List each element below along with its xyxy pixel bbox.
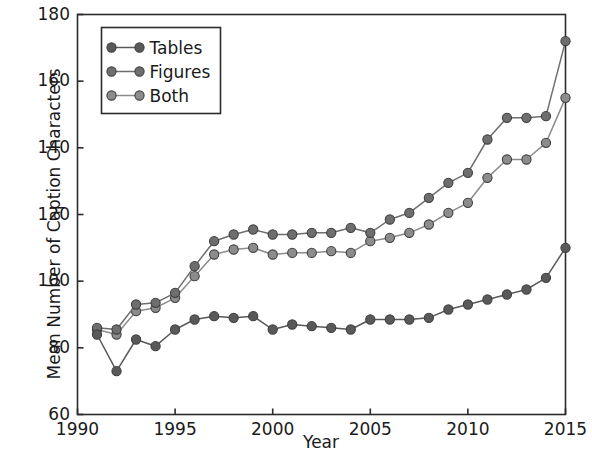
data-point — [249, 243, 258, 252]
line-chart-canvas: TablesFiguresBoth — [0, 0, 592, 458]
x-axis-tick-label: 2000 — [233, 419, 313, 439]
data-point — [190, 315, 199, 324]
legend-marker — [107, 67, 116, 76]
data-point — [268, 230, 277, 239]
data-point — [92, 330, 101, 339]
data-point — [249, 312, 258, 321]
data-point — [483, 295, 492, 304]
data-point — [249, 225, 258, 234]
data-point — [288, 248, 297, 257]
data-point — [210, 250, 219, 259]
data-point — [210, 237, 219, 246]
data-point — [229, 313, 238, 322]
data-point — [112, 367, 121, 376]
data-point — [502, 113, 511, 122]
chart-figure: TablesFiguresBoth Mean Number of Caption… — [0, 0, 592, 458]
data-point — [463, 198, 472, 207]
y-axis-tick-label: 180 — [8, 4, 70, 24]
legend-marker — [135, 43, 144, 52]
data-point — [483, 173, 492, 182]
data-point — [541, 138, 550, 147]
data-point — [424, 193, 433, 202]
data-point — [541, 112, 550, 121]
data-point — [307, 248, 316, 257]
data-point — [502, 155, 511, 164]
legend-marker — [135, 91, 144, 100]
data-point — [151, 342, 160, 351]
data-point — [190, 272, 199, 281]
data-point — [131, 300, 140, 309]
y-axis-tick-label: 160 — [8, 70, 70, 90]
data-point — [405, 208, 414, 217]
data-point — [561, 37, 570, 46]
data-point — [522, 113, 531, 122]
y-axis-tick-label: 100 — [8, 270, 70, 290]
legend-marker — [135, 67, 144, 76]
data-point — [327, 247, 336, 256]
data-point — [424, 220, 433, 229]
y-axis-tick-label: 80 — [8, 337, 70, 357]
x-axis-tick-label: 2005 — [330, 419, 410, 439]
legend-label-tables: Tables — [149, 38, 203, 58]
data-point — [346, 248, 355, 257]
data-point — [444, 178, 453, 187]
series-line-both — [97, 98, 565, 335]
x-axis-tick-label: 1995 — [135, 419, 215, 439]
data-point — [346, 325, 355, 334]
legend-marker — [107, 43, 116, 52]
legend-label-both: Both — [150, 86, 190, 106]
data-point — [327, 228, 336, 237]
data-point — [483, 135, 492, 144]
data-point — [405, 228, 414, 237]
series-line-tables — [97, 248, 565, 371]
x-axis-tick-label: 1990 — [38, 419, 118, 439]
data-point — [463, 300, 472, 309]
data-point — [307, 322, 316, 331]
data-point — [366, 315, 375, 324]
data-point — [210, 312, 219, 321]
data-point — [131, 335, 140, 344]
data-point — [171, 325, 180, 334]
data-point — [288, 230, 297, 239]
data-point — [288, 320, 297, 329]
data-point — [346, 223, 355, 232]
y-axis-tick-label: 140 — [8, 137, 70, 157]
data-point — [190, 262, 199, 271]
data-point — [268, 250, 277, 259]
data-point — [463, 168, 472, 177]
data-point — [112, 325, 121, 334]
data-point — [541, 273, 550, 282]
data-point — [444, 208, 453, 217]
data-point — [405, 315, 414, 324]
data-point — [385, 315, 394, 324]
data-point — [385, 215, 394, 224]
data-point — [444, 305, 453, 314]
x-axis-tick-label: 2010 — [428, 419, 508, 439]
data-point — [366, 228, 375, 237]
data-point — [502, 290, 511, 299]
data-point — [151, 298, 160, 307]
data-point — [561, 243, 570, 252]
data-point — [522, 155, 531, 164]
y-axis-title: Mean Number of Caption Characters — [44, 68, 64, 379]
legend-label-figures: Figures — [150, 62, 211, 82]
data-point — [229, 245, 238, 254]
x-axis-tick-label: 2015 — [526, 419, 592, 439]
data-point — [229, 230, 238, 239]
data-point — [424, 313, 433, 322]
data-point — [171, 288, 180, 297]
data-point — [307, 228, 316, 237]
data-point — [385, 233, 394, 242]
y-axis-tick-label: 120 — [8, 204, 70, 224]
legend-marker — [107, 91, 116, 100]
data-point — [561, 93, 570, 102]
data-point — [268, 325, 277, 334]
data-point — [327, 323, 336, 332]
data-point — [522, 285, 531, 294]
